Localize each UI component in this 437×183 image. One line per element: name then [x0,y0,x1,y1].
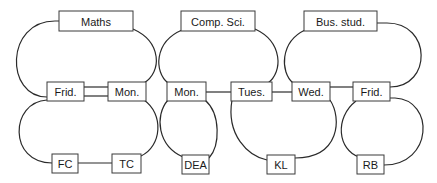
node-label: Tues. [238,86,265,98]
edge-compsci-mon [159,30,182,83]
edge-frid-fc [19,100,52,163]
node-tc: TC [112,154,141,173]
edge-busstud-wed [284,30,305,83]
edge-compsci-tues [255,29,278,83]
node-frid-2: Frid. [353,82,390,101]
node-label: Wed. [298,86,323,98]
node-label: Mon. [115,86,139,98]
node-dea: DEA [182,155,209,174]
edge-tues-kl [231,100,267,160]
node-comp-sci: Comp. Sci. [181,11,255,31]
edge-mon-tc [141,100,158,156]
node-label: Maths [81,16,111,28]
edge-wed-kl [295,100,336,158]
edge-maths-mon [133,29,156,83]
node-label: KL [274,159,287,171]
node-mon-2: Mon. [167,82,206,101]
node-fc: FC [52,154,78,173]
node-label: FC [58,158,73,170]
edge-frid-rb-right [384,98,423,165]
timetable-diagram: Maths Comp. Sci. Bus. stud. Frid. Mon. M… [0,0,437,183]
node-frid-1: Frid. [47,82,84,101]
edge-mon-dea-right [205,100,217,158]
node-label: Mon. [174,86,198,98]
node-kl: KL [267,155,295,174]
node-label: Comp. Sci. [191,16,245,28]
edge-busstud-frid [377,23,421,87]
node-rb: RB [357,155,384,174]
node-label: Frid. [361,86,383,98]
node-tues: Tues. [231,82,272,101]
node-label: RB [363,159,378,171]
edge-mon-dea-left [160,100,183,157]
node-maths: Maths [59,11,133,31]
node-wed: Wed. [292,82,330,101]
node-label: DEA [184,159,207,171]
node-label: Frid. [55,86,77,98]
node-bus-stud: Bus. stud. [304,11,377,31]
node-mon-1: Mon. [108,82,146,101]
node-label: TC [119,158,134,170]
node-label: Bus. stud. [316,16,365,28]
edge-frid-rb-left [341,101,359,157]
